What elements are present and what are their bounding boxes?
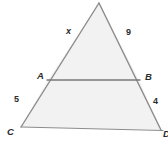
vertex-label-d: D <box>163 129 168 139</box>
upper-triangle-region <box>48 3 139 80</box>
geometry-figure: A B C D x 9 5 4 <box>0 0 168 142</box>
vertex-label-b: B <box>145 72 152 82</box>
side-label-x: x <box>66 27 71 36</box>
side-label-5: 5 <box>14 95 19 104</box>
side-label-9: 9 <box>126 28 131 37</box>
geometry-svg <box>0 0 168 142</box>
vertex-label-c: C <box>7 127 14 137</box>
side-label-4: 4 <box>153 97 158 106</box>
vertex-label-a: A <box>37 71 44 81</box>
